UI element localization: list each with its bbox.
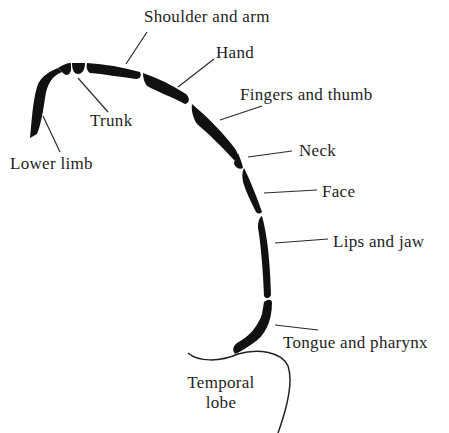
label-shoulder-and-arm: Shoulder and arm [144,8,270,25]
leader-lips-jaw [275,239,328,243]
segment-shoulder-arm [87,63,141,79]
segment-lower-limb [30,68,62,138]
label-temporal-lobe-line2: lobe [183,393,259,413]
leader-tongue-pharynx [275,325,318,330]
leader-neck [248,151,292,157]
leader-trunk [78,78,108,112]
label-face: Face [322,183,355,200]
segment-tongue-pharynx [233,300,272,354]
leader-fingers-thumb [220,106,262,120]
label-tongue-and-pharynx: Tongue and pharynx [283,334,428,351]
segment-trunk-2 [72,63,85,74]
leader-hand [178,59,214,87]
label-trunk: Trunk [90,112,132,129]
segment-trunk [58,63,71,75]
leader-lower-limb [43,116,60,152]
label-neck: Neck [299,142,336,159]
label-lower-limb: Lower limb [10,155,93,172]
segment-fingers-thumb [192,104,238,160]
segment-lips-jaw [258,216,271,298]
leader-face [264,190,317,193]
homunculus-diagram: Shoulder and arm Hand Fingers and thumb … [0,0,449,433]
label-temporal-lobe-line1: Temporal [183,373,259,393]
diagram-drawing [0,0,449,433]
label-hand: Hand [216,44,254,61]
segment-face [242,168,262,214]
segment-hand [143,73,189,104]
leader-shoulder-arm [126,32,147,64]
label-lips-and-jaw: Lips and jaw [333,233,424,250]
label-fingers-and-thumb: Fingers and thumb [240,86,373,103]
label-temporal-lobe: Temporal lobe [183,373,259,412]
